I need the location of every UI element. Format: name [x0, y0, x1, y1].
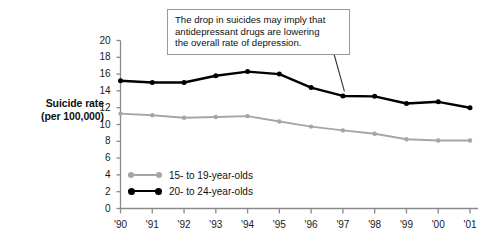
y-tick-label-20: 20: [89, 36, 111, 46]
annotation-line-1: The drop in suicides may imply that: [175, 14, 343, 26]
x-tick-label-99: '99: [389, 220, 423, 230]
data-point: [436, 99, 441, 104]
y-tick-label-2: 2: [89, 187, 111, 197]
annotation-callout: The drop in suicides may imply that anti…: [167, 9, 350, 55]
data-point: [341, 128, 345, 132]
series-layer: [118, 69, 473, 143]
x-tick-label-98: '98: [358, 220, 392, 230]
x-tick-label-93: '93: [199, 220, 233, 230]
series-black-20-24: [118, 69, 473, 110]
annotation-line-2: antidepressant drugs are lowering: [175, 26, 343, 38]
data-point: [245, 69, 250, 74]
data-point: [182, 116, 186, 120]
x-tick-label-92: '92: [167, 220, 201, 230]
x-tick-label-95: '95: [262, 220, 296, 230]
data-point: [404, 101, 409, 106]
y-tick-label-8: 8: [89, 136, 111, 146]
data-point: [245, 114, 249, 118]
x-tick-label-96: '96: [294, 220, 328, 230]
chart-legend: 15- to 19-year-olds 20- to 24-year-olds: [128, 167, 253, 199]
data-point: [309, 124, 313, 128]
data-point: [372, 94, 377, 99]
y-tick-label-12: 12: [89, 103, 111, 113]
y-tick-label-0: 0: [89, 204, 111, 214]
series-gray-15-19: [118, 111, 472, 142]
x-tick-label-90: '90: [104, 220, 138, 230]
data-point: [436, 138, 440, 142]
annotation-line-3: the overall rate of depression.: [175, 37, 343, 49]
x-tick-label-97: '97: [326, 220, 360, 230]
data-point: [118, 78, 123, 83]
legend-label-15-to-19: 15- to 19-year-olds: [169, 170, 253, 181]
data-point: [150, 80, 155, 85]
data-point: [404, 137, 408, 141]
y-tick-label-6: 6: [89, 153, 111, 163]
legend-swatch-gray-line-icon: [128, 169, 162, 181]
data-point: [277, 119, 281, 123]
y-tick-label-16: 16: [89, 69, 111, 79]
data-point: [468, 105, 473, 110]
y-tick-label-18: 18: [89, 52, 111, 62]
data-point: [214, 115, 218, 119]
x-tick-label-00: '00: [421, 220, 455, 230]
data-point: [150, 113, 154, 117]
data-point: [372, 132, 376, 136]
x-tick-label-94: '94: [231, 220, 265, 230]
data-point: [182, 80, 187, 85]
data-point: [340, 93, 345, 98]
y-tick-label-10: 10: [89, 120, 111, 130]
data-point: [309, 85, 314, 90]
x-tick-label-91: '91: [135, 220, 169, 230]
legend-item-20-to-24[interactable]: 20- to 24-year-olds: [128, 183, 253, 199]
y-tick-label-4: 4: [89, 170, 111, 180]
legend-item-15-to-19[interactable]: 15- to 19-year-olds: [128, 167, 253, 183]
data-point: [277, 72, 282, 77]
data-point: [468, 138, 472, 142]
data-point: [118, 111, 122, 115]
annotation-leader-line: [334, 54, 344, 91]
data-point: [213, 73, 218, 78]
legend-swatch-black-line-icon: [128, 185, 162, 197]
x-tick-label-01: '01: [453, 220, 487, 230]
suicide-rate-line-chart: Suicide rate (per 100,000) 0246810121416…: [0, 0, 489, 246]
y-tick-label-14: 14: [89, 86, 111, 96]
legend-label-20-to-24: 20- to 24-year-olds: [169, 186, 253, 197]
